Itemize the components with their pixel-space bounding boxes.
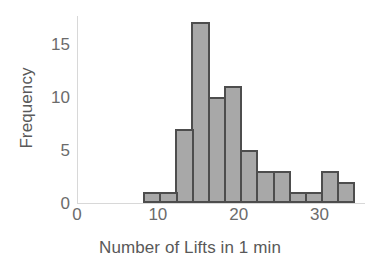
histogram-bar <box>272 171 291 203</box>
histogram-bar <box>143 192 162 203</box>
x-tick-label: 10 <box>148 206 167 223</box>
histogram-bar <box>288 192 307 203</box>
y-axis-tick-labels: 051015 <box>40 0 70 277</box>
y-tick-label: 5 <box>40 141 70 158</box>
histogram-bar <box>207 97 226 203</box>
plot-area <box>77 16 365 204</box>
y-tick-label: 15 <box>40 35 70 52</box>
y-axis-title: Frequency <box>14 8 40 208</box>
y-tick-label: 0 <box>40 195 70 212</box>
x-axis-tick-labels: 0102030 <box>77 206 365 230</box>
histogram-bar <box>337 182 356 203</box>
x-tick-label: 0 <box>72 206 81 223</box>
histogram-bars <box>78 16 365 203</box>
histogram-bar <box>159 192 178 203</box>
x-tick-label: 30 <box>310 206 329 223</box>
x-axis-title: Number of Lifts in 1 min <box>0 238 380 258</box>
histogram-figure: Frequency 051015 0102030 Number of Lifts… <box>0 0 380 277</box>
histogram-bar <box>191 22 210 203</box>
histogram-bar <box>175 129 194 203</box>
histogram-bar <box>304 192 323 203</box>
histogram-bar <box>240 150 259 203</box>
histogram-bar <box>224 86 243 203</box>
x-tick-label: 20 <box>229 206 248 223</box>
histogram-bar <box>256 171 275 203</box>
histogram-bar <box>321 171 340 203</box>
y-tick-label: 10 <box>40 88 70 105</box>
